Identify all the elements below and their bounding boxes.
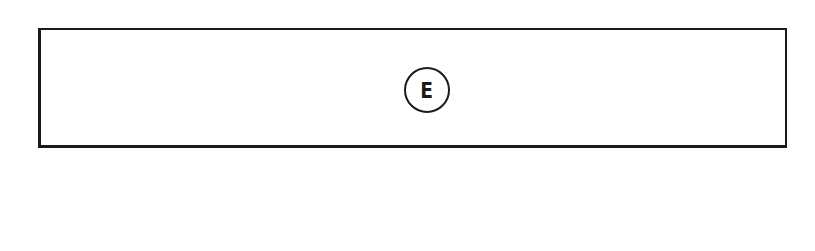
reference-label: E — [421, 80, 434, 102]
diagram-figure: E — [0, 0, 815, 251]
reference-circle-icon: E — [404, 67, 450, 113]
